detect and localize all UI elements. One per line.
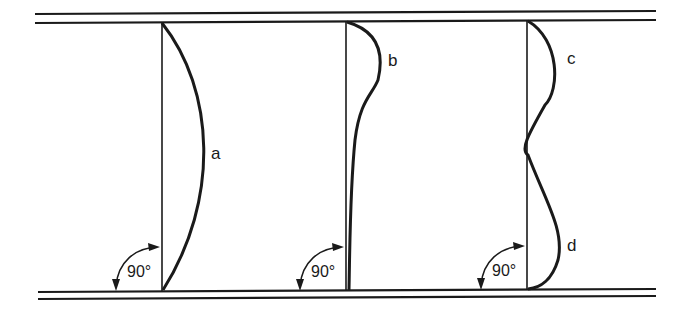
diagram: a b c d 90° 90° 90° <box>0 0 684 314</box>
arrowhead-a-bottom <box>112 279 120 291</box>
arrowhead-a-top <box>148 243 160 251</box>
deflection-curve-b <box>347 22 380 290</box>
label-b: b <box>388 52 397 69</box>
bottom-plate-outer-line <box>38 296 656 299</box>
arrowhead-b-bottom <box>296 279 304 291</box>
label-a: a <box>211 145 220 162</box>
top-plate-outer-line <box>35 11 656 14</box>
label-c: c <box>567 50 576 67</box>
angle-label-b: 90° <box>311 264 335 280</box>
angle-label-d: 90° <box>492 263 516 279</box>
diagram-drawing <box>0 0 684 314</box>
deflection-curve-cd <box>525 21 560 289</box>
angle-label-a: 90° <box>127 264 151 280</box>
arrowhead-d-top <box>513 242 525 250</box>
arrowhead-d-bottom <box>477 278 485 290</box>
label-d: d <box>567 237 576 254</box>
arrowhead-b-top <box>332 243 344 251</box>
bottom-plate-inner-line <box>38 289 656 292</box>
deflection-curve-a <box>162 23 204 290</box>
